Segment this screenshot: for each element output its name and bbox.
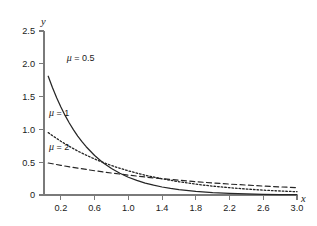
series-annotation-0: μ = 0.5: [66, 52, 95, 63]
series-curves: [48, 76, 297, 194]
x-tick-label: 1.0: [122, 203, 135, 213]
series-annotation-2: μ = 2: [48, 141, 69, 152]
x-tick-label: 3.0: [291, 203, 304, 213]
y-axis-ticks: 00.51.01.52.02.5: [22, 26, 44, 200]
x-tick-label: 2.2: [223, 203, 236, 213]
y-tick-label: 1.0: [22, 125, 35, 135]
x-tick-label: 0.6: [88, 203, 101, 213]
y-tick-label: 2.5: [22, 26, 35, 36]
y-axis: 00.51.01.52.02.5 y: [22, 16, 46, 200]
x-tick-label: 0.2: [54, 203, 67, 213]
y-axis-label: y: [40, 16, 46, 27]
y-tick-label: 2.0: [22, 59, 35, 69]
y-tick-label: 0: [30, 190, 35, 200]
x-tick-label: 1.4: [156, 203, 169, 213]
x-axis: 0.20.61.01.41.82.22.63.0 x: [44, 193, 306, 213]
series-curve-mu-2: [48, 163, 297, 188]
series-annotation-1: μ = 1: [48, 107, 69, 118]
y-tick-label: 1.5: [22, 92, 35, 102]
series-curve-mu-1: [48, 133, 297, 192]
exponential-pdf-chart: 00.51.01.52.02.5 y 0.20.61.01.41.82.22.6…: [0, 0, 317, 226]
chart-canvas: 00.51.01.52.02.5 y 0.20.61.01.41.82.22.6…: [0, 0, 317, 226]
x-tick-label: 2.6: [257, 203, 270, 213]
y-tick-label: 0.5: [22, 158, 35, 168]
x-axis-ticks: 0.20.61.01.41.82.22.63.0: [54, 195, 303, 213]
series-curve-mu-0_5: [48, 76, 297, 194]
x-axis-label: x: [300, 193, 306, 204]
x-tick-label: 1.8: [189, 203, 202, 213]
